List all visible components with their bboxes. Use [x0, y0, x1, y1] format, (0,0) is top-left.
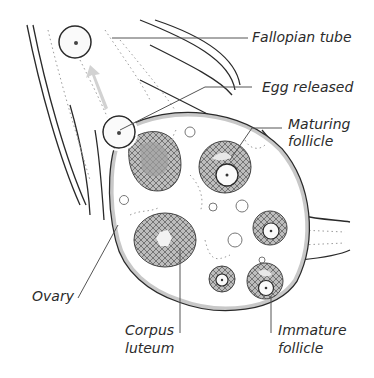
label-corpus-luteum-1: Corpus: [125, 322, 174, 338]
label-egg-released: Egg released: [262, 79, 353, 95]
label-ovary: Ovary: [32, 288, 74, 304]
label-fallopian-tube: Fallopian tube: [252, 29, 352, 45]
maturing-follicle: [199, 141, 251, 193]
label-corpus-luteum-2: luteum: [125, 340, 174, 356]
label-immature-follicle-2: follicle: [278, 340, 323, 356]
corpus-luteum: [134, 213, 196, 267]
immature-follicle-large: [247, 263, 283, 299]
egg-released-circle: [101, 114, 137, 150]
immature-follicle-small: [209, 266, 235, 292]
egg-travel-arrow: [86, 65, 108, 110]
label-maturing-follicle-1: Maturing: [288, 116, 350, 132]
follicle-right: [253, 211, 287, 245]
label-maturing-follicle-2: follicle: [288, 133, 333, 149]
egg-in-tube: [59, 26, 91, 58]
label-immature-follicle-1: Immature: [278, 322, 347, 338]
